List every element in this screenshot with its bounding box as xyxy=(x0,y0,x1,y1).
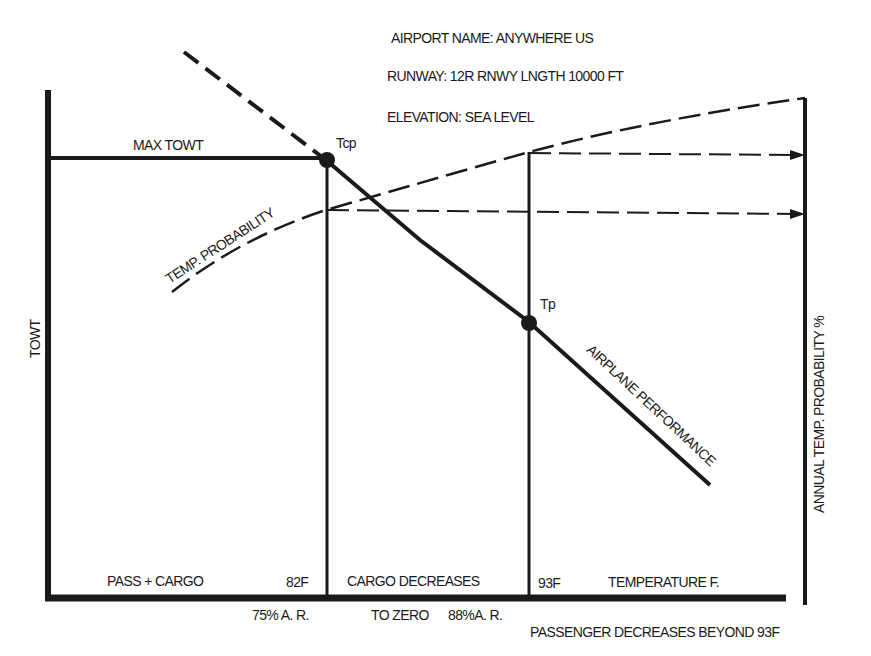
airplane-performance-line xyxy=(326,160,710,485)
tcp-point xyxy=(319,152,335,168)
pass-cargo-label: PASS + CARGO xyxy=(107,574,203,588)
runway-text: RUNWAY: 12R RNWY LNGTH 10000 FT xyxy=(387,69,623,83)
temp-82f-label: 82F xyxy=(286,575,308,589)
arrowhead-icon xyxy=(790,209,805,219)
to-zero-label: TO ZERO xyxy=(371,608,429,622)
temp-probability-curve xyxy=(172,98,805,292)
y-right-axis-label: ANNUAL TEMP. PROBABILITY % xyxy=(812,316,826,513)
y-left-axis-label: TOWT xyxy=(28,319,42,358)
tcp-label: Tcp xyxy=(336,136,356,150)
passenger-decreases-label: PASSENGER DECREASES BEYOND 93F xyxy=(530,625,779,639)
diagram-canvas xyxy=(0,0,871,656)
tp-point xyxy=(521,315,537,331)
airport-name-text: AIRPORT NAME: ANYWHERE US xyxy=(391,31,593,45)
x-axis-label: TEMPERATURE F. xyxy=(608,575,719,589)
temp-93f-label: 93F xyxy=(538,576,560,590)
probability-88-arrow-line xyxy=(529,153,795,155)
performance-dashed-line xyxy=(184,52,326,160)
max-towt-label: MAX TOWT xyxy=(133,138,203,152)
ar-88-label: 88%A. R. xyxy=(448,608,502,622)
elevation-text: ELEVATION: SEA LEVEL xyxy=(387,110,534,124)
ar-75-label: 75% A. R. xyxy=(252,608,309,622)
cargo-decreases-label: CARGO DECREASES xyxy=(347,574,480,588)
tp-label: Tp xyxy=(540,297,555,311)
probability-75-arrow-line xyxy=(327,210,795,214)
arrowhead-icon xyxy=(790,150,805,160)
